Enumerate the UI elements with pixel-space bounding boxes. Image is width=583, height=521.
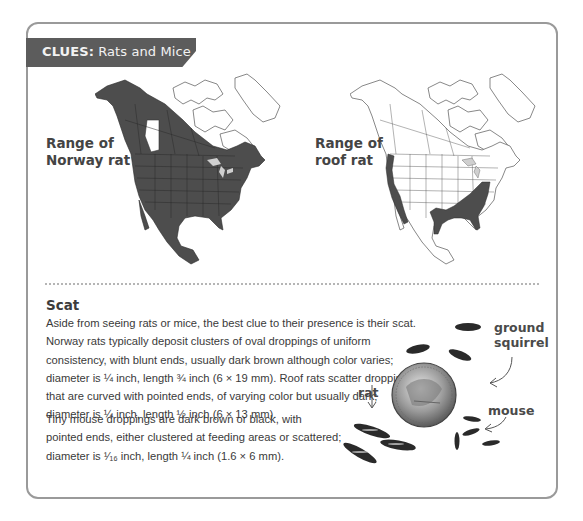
section-banner: CLUES: Rats and Mice <box>26 38 196 67</box>
dotted-divider <box>45 283 539 285</box>
roof-rat-map-label: Range of roof rat <box>315 135 383 169</box>
ground-squirrel-label: ground squirrel <box>494 320 549 350</box>
rat-label: rat <box>358 385 379 400</box>
roof-rat-range-map <box>350 70 540 275</box>
scat-paragraph-2: Tiny mouse droppings are dark brown or b… <box>46 410 341 465</box>
coin-icon <box>392 363 456 427</box>
mouse-label: mouse <box>488 403 534 418</box>
norway-rat-map-label: Range of Norway rat <box>46 135 130 169</box>
rat-droppings-icon <box>341 421 416 467</box>
scat-heading: Scat <box>46 297 79 313</box>
mouse-droppings-icon <box>455 415 501 450</box>
ground-squirrel-droppings-icon <box>405 323 481 363</box>
north-america-map-icon <box>95 70 285 275</box>
north-america-map-icon <box>350 70 540 275</box>
norway-rat-range-map <box>95 70 285 275</box>
banner-title: CLUES: Rats and Mice <box>42 44 191 59</box>
scat-comparison-illustration: ground squirrel rat mouse <box>330 305 550 475</box>
